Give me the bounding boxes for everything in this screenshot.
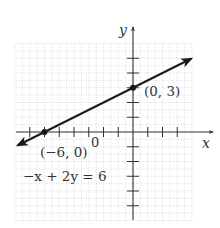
point-a-label: (−6, 0) (40, 144, 88, 160)
point-y-intercept (130, 85, 136, 91)
origin-label: 0 (91, 135, 99, 150)
equation-label: −x + 2y = 6 (23, 168, 107, 184)
point-b-label: (0, 3) (144, 83, 180, 99)
coordinate-graph: y x 0 (0, 3) (−6, 0) −x + 2y = 6 (0, 0, 220, 228)
y-axis-label: y (118, 22, 128, 38)
x-axis-label: x (202, 135, 210, 151)
point-x-intercept (42, 129, 48, 135)
